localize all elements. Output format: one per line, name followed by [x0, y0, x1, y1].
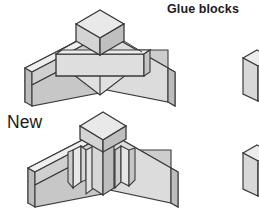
upper-beam-front-face	[56, 54, 144, 76]
annotation-new: New	[7, 114, 42, 132]
glue-block-sample-top-left-face	[243, 58, 258, 101]
glue-block-left-outer-front-face	[81, 146, 86, 182]
upper-joint-assembly	[25, 10, 175, 106]
upper-left-wing-end-face	[25, 68, 32, 106]
upper-right-wing-end-face	[168, 68, 175, 106]
glue-block-right-outer-front-face	[129, 148, 135, 186]
glue-block-left-outer-side-face	[68, 150, 73, 188]
glue-block-right-inner-front-face	[115, 146, 121, 188]
lower-joint-assembly	[28, 112, 178, 207]
glue-block-sample-bottom	[243, 145, 259, 196]
page-title: Glue blocks	[167, 3, 239, 16]
figure-canvas: Glue blocks New	[0, 0, 259, 221]
joint-illustration	[0, 0, 259, 221]
lower-glue-block-right-outer	[121, 146, 135, 186]
glue-block-sample-top	[243, 50, 259, 101]
glue-block-left-outer-top-face	[73, 146, 81, 188]
lower-left-wing-end-face	[28, 168, 35, 207]
lower-right-wing-end-face	[171, 168, 178, 207]
glue-block-sample-bottom-left-face	[243, 153, 258, 196]
upper-beam-end-face	[144, 50, 150, 76]
glue-block-right-outer-top-face	[121, 146, 129, 186]
